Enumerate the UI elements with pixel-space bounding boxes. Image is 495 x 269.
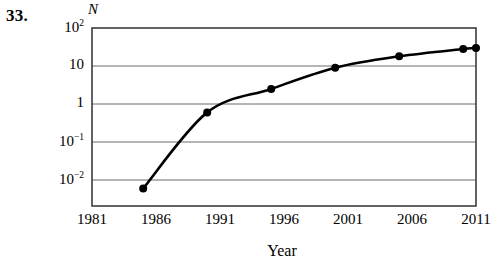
- data-point-marker: [267, 85, 275, 93]
- x-tick-label: 2006: [382, 211, 442, 228]
- series-line: [143, 48, 476, 189]
- x-tick-label: 1986: [126, 211, 186, 228]
- data-point-marker: [139, 184, 147, 192]
- x-tick-label: 1981: [62, 211, 122, 228]
- x-tick-label: 1991: [190, 211, 250, 228]
- data-point-marker: [472, 44, 480, 52]
- x-tick-label: 1996: [254, 211, 314, 228]
- x-axis-title-text: Year: [267, 242, 296, 259]
- data-point-marker: [459, 45, 467, 53]
- x-axis-title: Year: [0, 242, 486, 260]
- data-point-marker: [203, 108, 211, 116]
- data-point-marker: [331, 64, 339, 72]
- x-tick-label: 2011: [446, 211, 495, 228]
- x-tick-label: 2001: [318, 211, 378, 228]
- data-point-marker: [395, 52, 403, 60]
